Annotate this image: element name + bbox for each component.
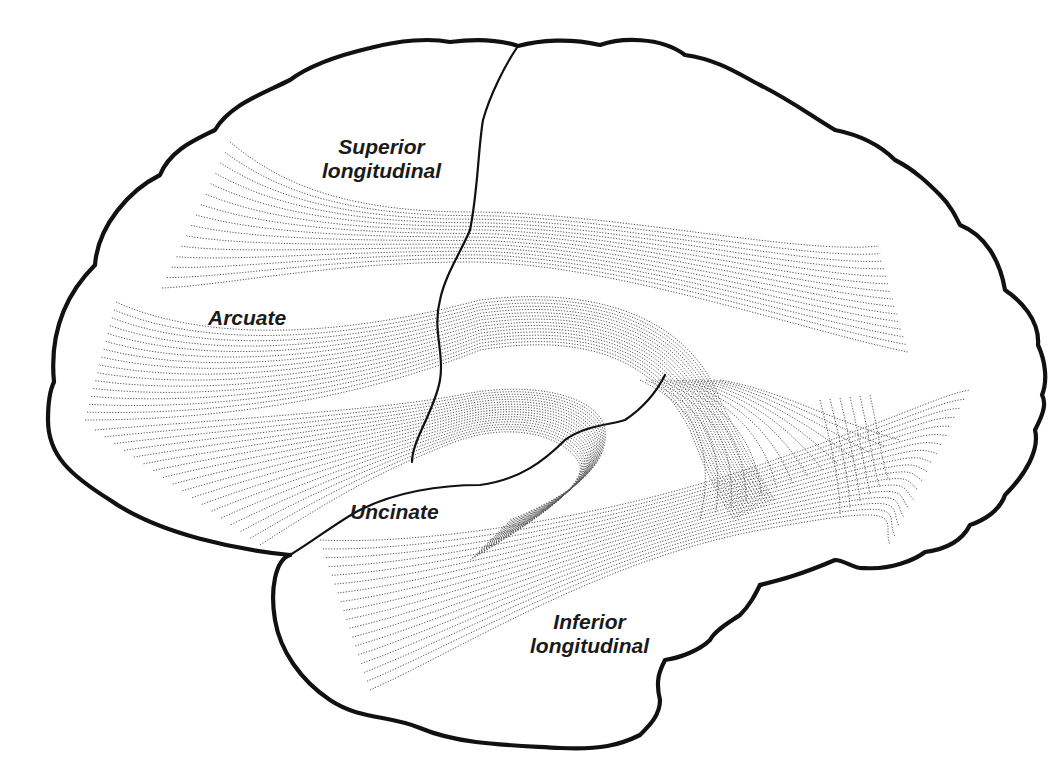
label-arcuate: Arcuate: [208, 306, 286, 330]
label-inferior-longitudinal-line2: longitudinal: [530, 634, 649, 658]
label-inferior-longitudinal: Inferior longitudinal: [530, 610, 649, 658]
label-arcuate-line1: Arcuate: [208, 306, 286, 330]
label-superior-longitudinal: Superior longitudinal: [322, 135, 441, 183]
label-uncinate: Uncinate: [350, 500, 439, 524]
label-superior-longitudinal-line1: Superior: [322, 135, 441, 159]
fiber-tracts: [85, 142, 970, 690]
label-uncinate-line1: Uncinate: [350, 500, 439, 524]
brain-fiber-diagram: [0, 0, 1054, 770]
temporal-lobe-outline: [273, 555, 760, 748]
label-superior-longitudinal-line2: longitudinal: [322, 159, 441, 183]
label-inferior-longitudinal-line1: Inferior: [530, 610, 649, 634]
